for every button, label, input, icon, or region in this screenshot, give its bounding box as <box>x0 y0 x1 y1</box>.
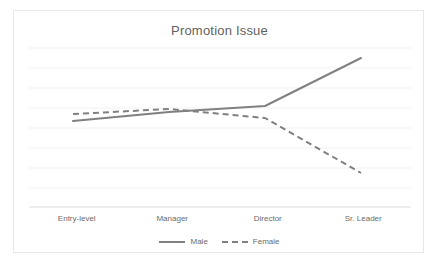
x-axis-tick-labels: Entry-level Manager Director Sr. Leader <box>29 211 411 227</box>
legend-swatch-solid-icon <box>159 238 185 246</box>
x-tick-director: Director <box>220 211 316 227</box>
legend-swatch-dashed-icon <box>222 238 248 246</box>
gridlines <box>29 48 411 188</box>
x-tick-sr-leader: Sr. Leader <box>316 211 412 227</box>
series-line-female <box>73 109 361 173</box>
x-tick-manager: Manager <box>125 211 221 227</box>
legend-item-female: Female <box>222 237 280 247</box>
legend-item-male: Male <box>159 237 207 247</box>
chart-card: Promotion Issue Entry-level Manager Dire… <box>13 10 424 253</box>
legend-label-female: Female <box>253 237 280 247</box>
legend-label-male: Male <box>190 237 207 247</box>
x-tick-entry-level: Entry-level <box>29 211 125 227</box>
chart-legend: Male Female <box>14 233 425 251</box>
